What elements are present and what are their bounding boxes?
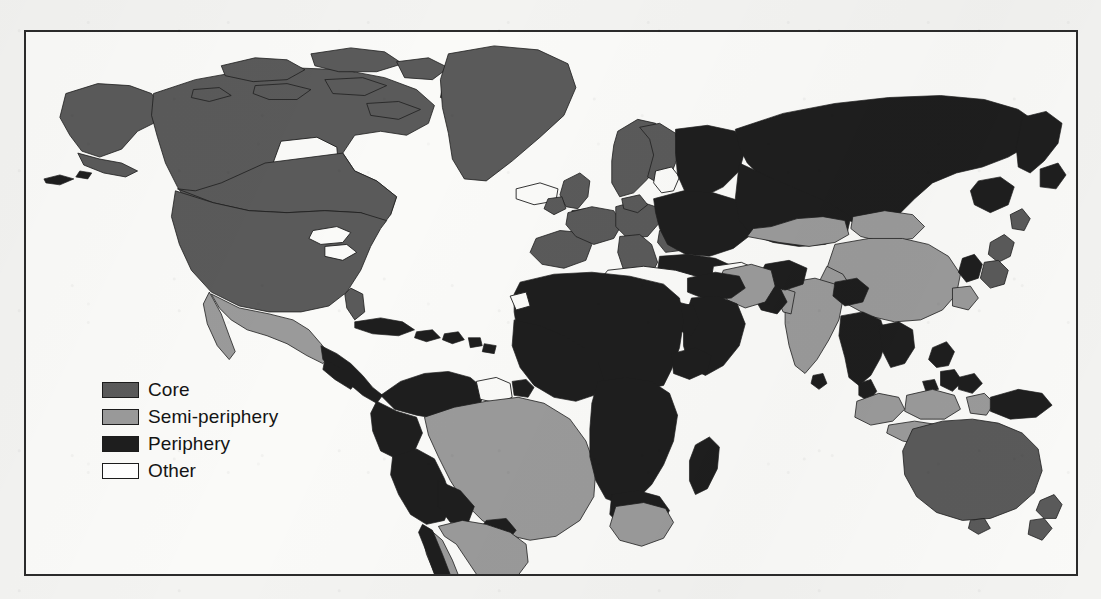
region-central-america <box>321 346 383 404</box>
map-legend: Core Semi-periphery Periphery Other <box>102 376 278 484</box>
region-china <box>819 238 978 321</box>
legend-item-core[interactable]: Core <box>102 376 278 403</box>
legend-swatch-core <box>102 382 139 398</box>
world-map-svg: .core{fill:#5a5a5a;stroke:#1e1e1e;stroke… <box>26 32 1076 574</box>
region-south-america <box>371 371 596 574</box>
map-figure-frame: .core{fill:#5a5a5a;stroke:#1e1e1e;stroke… <box>24 30 1078 576</box>
legend-label-core: Core <box>148 380 190 399</box>
legend-swatch-semi-periphery <box>102 409 139 425</box>
region-australia <box>903 419 1042 534</box>
legend-label-other: Other <box>148 461 196 480</box>
region-japan <box>980 209 1030 288</box>
legend-item-other[interactable]: Other <box>102 457 278 484</box>
legend-label-semi-periphery: Semi-periphery <box>148 407 278 426</box>
world-map-canvas: .core{fill:#5a5a5a;stroke:#1e1e1e;stroke… <box>26 32 1076 574</box>
legend-item-periphery[interactable]: Periphery <box>102 430 278 457</box>
region-new-zealand <box>1028 495 1062 541</box>
legend-swatch-other <box>102 463 139 479</box>
region-caribbean <box>355 318 496 354</box>
region-korea <box>958 254 982 282</box>
legend-item-semi-periphery[interactable]: Semi-periphery <box>102 403 278 430</box>
legend-swatch-periphery <box>102 436 139 452</box>
region-papua-new-guinea <box>990 389 1052 419</box>
legend-label-periphery: Periphery <box>148 434 230 453</box>
region-alaska <box>44 84 162 185</box>
region-greenland <box>440 46 575 181</box>
region-southeast-asia <box>839 312 915 401</box>
region-philippines <box>923 342 963 394</box>
